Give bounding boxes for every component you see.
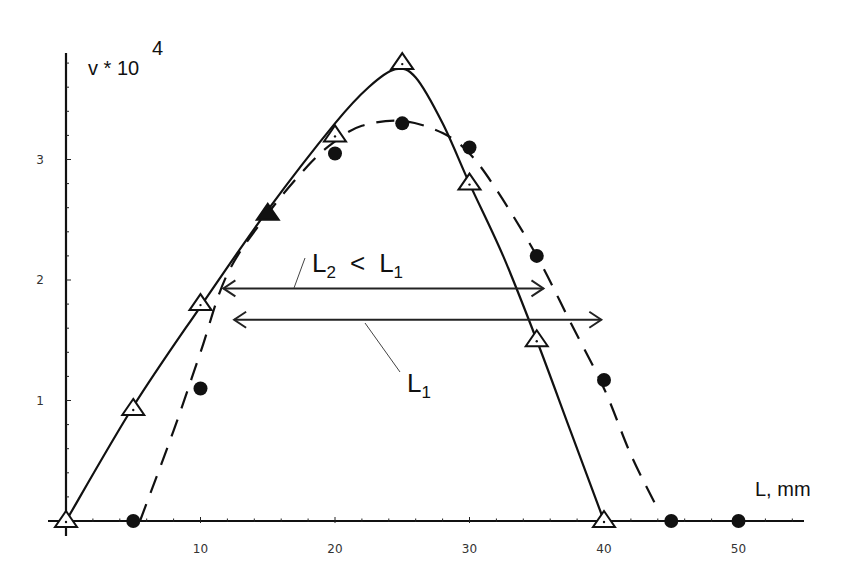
leader-L2 — [294, 258, 305, 288]
x-axis-title: L, mm — [755, 478, 811, 500]
triangle-marker — [593, 511, 615, 527]
triangle-marker — [257, 204, 279, 220]
triangle-dot — [132, 409, 134, 411]
svg-text:L2<L1: L2<L1 — [312, 248, 403, 282]
circle-marker — [194, 381, 208, 395]
triangle-dot — [468, 183, 470, 185]
circle-marker — [530, 249, 544, 263]
circle-marker — [126, 514, 140, 528]
circle-marker — [732, 514, 746, 528]
triangle-dot — [401, 63, 403, 65]
circle-marker — [664, 514, 678, 528]
dashed-curve — [140, 121, 658, 521]
y-axis-title: v * 10 — [88, 57, 139, 79]
triangle-marker — [526, 330, 548, 346]
y-tick-label: 2 — [36, 273, 44, 287]
triangle-dot — [603, 521, 605, 523]
x-tick-label: 30 — [462, 542, 477, 556]
axis-ticks: 1020304050123 — [36, 63, 792, 556]
triangle-marker — [459, 174, 481, 190]
circle-marker — [597, 373, 611, 387]
data-curves — [66, 68, 658, 521]
triangle-dot — [334, 135, 336, 137]
triangle-marker — [391, 53, 413, 69]
arrow-L1 — [234, 312, 601, 328]
annotation-L2-label: L2<L1 — [312, 248, 403, 282]
triangle-dot — [65, 521, 67, 523]
chart-canvas: 1020304050123 v * 10 4 L, mm L2<L1 L1 — [0, 0, 868, 574]
annotation-L1-label: L1 — [407, 368, 431, 402]
y-axis-title-exponent: 4 — [152, 37, 163, 59]
x-tick-label: 20 — [327, 542, 342, 556]
length-arrows — [223, 258, 601, 372]
data-markers — [55, 53, 746, 528]
x-tick-label: 40 — [596, 542, 611, 556]
circle-marker — [328, 146, 342, 160]
triangle-marker — [55, 511, 77, 527]
leader-L1 — [365, 323, 400, 372]
y-tick-label: 1 — [36, 394, 44, 408]
triangle-dot — [536, 340, 538, 342]
svg-text:L1: L1 — [407, 368, 431, 402]
arrow-L2 — [223, 280, 543, 296]
x-tick-label: 50 — [731, 542, 746, 556]
x-tick-label: 10 — [193, 542, 208, 556]
y-tick-label: 3 — [36, 153, 44, 167]
circle-marker — [463, 140, 477, 154]
triangle-marker — [122, 399, 144, 415]
triangle-dot — [199, 304, 201, 306]
circle-marker — [395, 116, 409, 130]
